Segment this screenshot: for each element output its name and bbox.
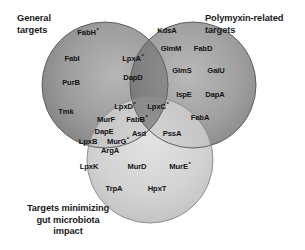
venn-label-text: FabH bbox=[77, 28, 96, 37]
venn-label-text: Tmk bbox=[58, 107, 73, 116]
caption-general-targets: General targets bbox=[17, 13, 51, 36]
venn-label-kdsa: KdsA bbox=[157, 26, 176, 35]
venn-label-fabi: FabI bbox=[64, 54, 79, 63]
venn-label-text: GlmM bbox=[161, 44, 182, 53]
venn-label-dape: DapE bbox=[94, 127, 113, 136]
venn-label-asd: Asd bbox=[132, 129, 146, 138]
venn-label-galu: GalU bbox=[207, 66, 224, 75]
venn-label-lpxk: LpxK bbox=[80, 162, 99, 171]
venn-label-text: LpxK bbox=[80, 162, 99, 171]
venn-label-text: LpxC bbox=[147, 102, 166, 111]
venn-label-text: HpxT bbox=[148, 184, 167, 193]
venn-label-text: FabI bbox=[64, 54, 79, 63]
venn-label-hpxt: HpxT bbox=[148, 184, 167, 193]
venn-label-lpxc: LpxC* bbox=[147, 101, 168, 112]
venn-label-trpa: TrpA bbox=[106, 184, 123, 193]
venn-diagram-figure: General targets Polymyxin-related target… bbox=[0, 0, 305, 250]
venn-label-text: IspE bbox=[176, 90, 192, 99]
venn-label-text: DapA bbox=[205, 90, 224, 99]
venn-label-dapd: DapD bbox=[123, 73, 142, 82]
venn-label-arga: ArgA bbox=[101, 146, 119, 155]
venn-label-fabd: FabD bbox=[194, 44, 213, 53]
caption-polymyxin-related-targets: Polymyxin-related targets bbox=[205, 13, 283, 36]
venn-label-text: ArgA bbox=[101, 146, 119, 155]
venn-label-text: MurD bbox=[127, 162, 146, 171]
asterisk-marker-icon: * bbox=[166, 101, 169, 107]
venn-label-text: DapE bbox=[94, 127, 113, 136]
asterisk-marker-icon: * bbox=[96, 27, 99, 33]
venn-label-faba: FabA bbox=[191, 113, 210, 122]
venn-label-text: PurB bbox=[62, 78, 80, 87]
venn-label-glms: GlmS bbox=[172, 66, 191, 75]
venn-label-text: DapD bbox=[123, 73, 142, 82]
venn-label-text: TrpA bbox=[106, 184, 123, 193]
venn-label-glmm: GlmM bbox=[161, 44, 182, 53]
venn-label-pssa: PssA bbox=[163, 129, 182, 138]
venn-label-fabh: FabH* bbox=[77, 27, 98, 38]
venn-label-ispe: IspE bbox=[176, 90, 192, 99]
asterisk-marker-icon: * bbox=[188, 161, 191, 167]
venn-label-text: MurE bbox=[169, 162, 188, 171]
venn-label-text: KdsA bbox=[157, 26, 176, 35]
venn-label-dapa: DapA bbox=[205, 90, 224, 99]
asterisk-marker-icon: * bbox=[126, 136, 129, 142]
venn-label-text: PssA bbox=[163, 129, 182, 138]
venn-label-text: MurF bbox=[97, 115, 115, 124]
venn-label-mure: MurE* bbox=[169, 161, 190, 172]
venn-label-text: LpxA bbox=[122, 54, 141, 63]
venn-label-text: LpxB bbox=[79, 137, 98, 146]
caption-gut-microbiota-targets: Targets minimizing gut microbiota impact bbox=[12, 203, 124, 238]
venn-label-text: GlmS bbox=[172, 66, 191, 75]
asterisk-marker-icon: * bbox=[133, 101, 136, 107]
asterisk-marker-icon: * bbox=[141, 53, 144, 59]
venn-label-fabb: FabB* bbox=[126, 114, 147, 125]
venn-label-murd: MurD bbox=[127, 162, 146, 171]
asterisk-marker-icon: * bbox=[145, 114, 148, 120]
venn-label-text: FabD bbox=[194, 44, 213, 53]
venn-label-text: FabB bbox=[126, 115, 145, 124]
venn-label-tmk: Tmk bbox=[58, 107, 73, 116]
venn-label-purb: PurB bbox=[62, 78, 80, 87]
venn-label-lpxb: LpxB bbox=[79, 137, 98, 146]
venn-label-murf: MurF bbox=[97, 115, 115, 124]
venn-label-lpxa: LpxA* bbox=[122, 53, 143, 64]
venn-label-lpxd: LpxD* bbox=[114, 101, 135, 112]
venn-label-text: FabA bbox=[191, 113, 210, 122]
venn-label-text: GalU bbox=[207, 66, 224, 75]
venn-label-text: Asd bbox=[132, 129, 146, 138]
venn-label-text: LpxD bbox=[114, 102, 133, 111]
